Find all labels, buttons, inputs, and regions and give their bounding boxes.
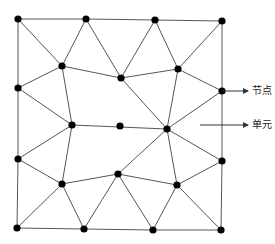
element-label: 单元 bbox=[252, 119, 272, 131]
mesh-node bbox=[58, 180, 65, 187]
mesh-edge bbox=[177, 185, 221, 230]
mesh-edge bbox=[17, 184, 62, 228]
mesh-node bbox=[117, 74, 124, 81]
mesh-edge bbox=[177, 161, 222, 185]
mesh-edge bbox=[167, 91, 222, 129]
mesh-edge bbox=[121, 69, 178, 78]
mesh-edge bbox=[167, 69, 178, 129]
mesh-edge bbox=[121, 78, 167, 129]
mesh-edge bbox=[17, 159, 18, 228]
mesh-edge bbox=[62, 125, 72, 184]
mesh-node bbox=[58, 62, 65, 69]
mesh-edge bbox=[18, 66, 62, 88]
mesh-node bbox=[80, 225, 87, 232]
mesh-edge bbox=[62, 19, 86, 66]
mesh-node bbox=[149, 226, 156, 233]
mesh-edge bbox=[153, 185, 177, 230]
mesh-edge bbox=[155, 20, 222, 21]
mesh-node bbox=[218, 157, 225, 164]
mesh-node bbox=[82, 15, 89, 22]
mesh-edge bbox=[121, 20, 155, 78]
mesh-node bbox=[173, 181, 180, 188]
mesh-edge bbox=[118, 129, 167, 174]
mesh-edge bbox=[62, 184, 84, 229]
mesh-edge bbox=[17, 228, 84, 229]
mesh-edge bbox=[18, 19, 62, 66]
mesh-node bbox=[14, 15, 21, 22]
mesh-edge bbox=[118, 174, 177, 185]
mesh-edge bbox=[18, 159, 62, 184]
mesh-node bbox=[218, 17, 225, 24]
mesh-edge bbox=[62, 174, 118, 184]
mesh-edge bbox=[167, 129, 222, 161]
mesh-edge bbox=[155, 20, 178, 69]
mesh-node bbox=[163, 125, 170, 132]
annotation-arrows bbox=[200, 91, 248, 125]
mesh-node bbox=[174, 65, 181, 72]
mesh-edge bbox=[221, 161, 222, 230]
mesh-node bbox=[14, 155, 21, 162]
mesh-node bbox=[68, 121, 75, 128]
mesh-edge bbox=[62, 66, 121, 78]
mesh-edge bbox=[86, 19, 155, 20]
node-label: 节点 bbox=[252, 85, 272, 97]
mesh-edge bbox=[178, 21, 222, 69]
mesh-edge bbox=[167, 129, 177, 185]
finite-element-mesh bbox=[0, 0, 275, 244]
mesh-edge bbox=[178, 69, 222, 91]
mesh-node bbox=[14, 84, 21, 91]
mesh-edge bbox=[86, 19, 121, 78]
mesh-edge bbox=[118, 174, 153, 230]
mesh-edge bbox=[18, 88, 72, 125]
mesh-edge bbox=[84, 229, 153, 230]
mesh-node bbox=[114, 170, 121, 177]
mesh-node bbox=[116, 122, 123, 129]
mesh-node bbox=[151, 16, 158, 23]
mesh-edge bbox=[62, 66, 72, 125]
mesh-node bbox=[217, 226, 224, 233]
mesh-node bbox=[13, 224, 20, 231]
mesh-edge bbox=[18, 125, 72, 159]
mesh-edge bbox=[84, 174, 118, 229]
